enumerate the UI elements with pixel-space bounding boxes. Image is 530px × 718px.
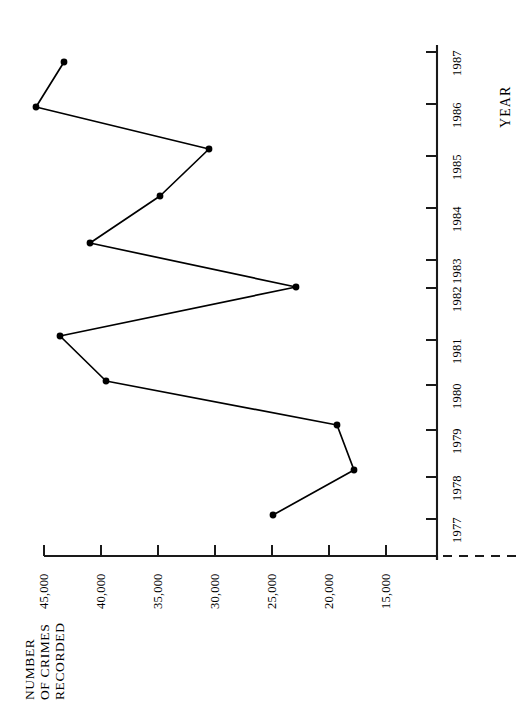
value-axis-title-line-1: NUMBER bbox=[22, 622, 37, 700]
data-point-1978[interactable] bbox=[351, 467, 358, 474]
value-axis-title: NUMBEROF CRIMESRECORDED bbox=[22, 622, 67, 700]
data-series-layer bbox=[33, 59, 358, 519]
data-point-1980[interactable] bbox=[103, 378, 110, 385]
year-tick-label-1977: 1977 bbox=[450, 517, 465, 543]
year-tick-label-1979: 1979 bbox=[450, 428, 465, 454]
year-tick-label-1984: 1984 bbox=[450, 206, 465, 232]
data-point-1981[interactable] bbox=[57, 333, 64, 340]
data-point-1982[interactable] bbox=[293, 284, 300, 291]
year-axis-title: YEAR bbox=[498, 85, 514, 128]
year-tick-label-1980: 1980 bbox=[450, 383, 465, 409]
value-tick-label-20000: 20,000 bbox=[322, 573, 337, 609]
data-point-1985[interactable] bbox=[206, 146, 213, 153]
value-axis-title-line-2: OF CRIMES bbox=[37, 622, 52, 700]
year-tick-label-1985: 1985 bbox=[450, 154, 465, 180]
value-axis-title-line-3: RECORDED bbox=[52, 622, 67, 700]
year-tick-label-1981: 1981 bbox=[450, 338, 465, 364]
data-point-1983[interactable] bbox=[87, 240, 94, 247]
year-tick-label-1978: 1978 bbox=[450, 475, 465, 501]
year-tick-label-1982: 1982 bbox=[450, 286, 465, 312]
data-line bbox=[36, 62, 354, 515]
year-tick-label-1987: 1987 bbox=[450, 50, 465, 76]
data-point-1979[interactable] bbox=[334, 422, 341, 429]
data-point-1987[interactable] bbox=[61, 59, 68, 66]
year-tick-label-1986: 1986 bbox=[450, 102, 465, 128]
value-tick-label-25000: 25,000 bbox=[265, 573, 280, 609]
chart-container: 1987198619851984198319821981198019791978… bbox=[0, 0, 530, 718]
year-tick-label-1983: 1983 bbox=[450, 258, 465, 284]
value-tick-label-15000: 15,000 bbox=[379, 573, 394, 609]
data-point-1986[interactable] bbox=[33, 104, 40, 111]
value-tick-label-30000: 30,000 bbox=[208, 573, 223, 609]
value-tick-label-40000: 40,000 bbox=[94, 573, 109, 609]
data-point-1977[interactable] bbox=[270, 512, 277, 519]
value-tick-label-35000: 35,000 bbox=[151, 573, 166, 609]
axes-layer bbox=[44, 45, 518, 560]
value-tick-label-45000: 45,000 bbox=[37, 573, 52, 609]
data-point-1984[interactable] bbox=[157, 193, 164, 200]
